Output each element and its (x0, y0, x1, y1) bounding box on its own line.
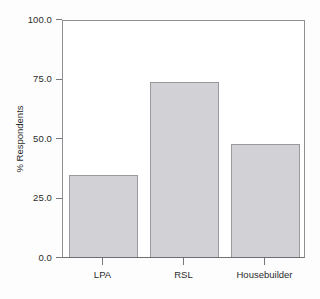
bar-slot (150, 21, 219, 257)
bar-slot (231, 21, 300, 257)
x-axis-tick-label-lpa: LPA (94, 269, 111, 280)
bar-lpa[interactable] (69, 175, 138, 257)
y-axis-tick-label: 0.0 (6, 252, 52, 263)
x-axis-tick-label-housebuilder: Housebuilder (237, 269, 293, 280)
x-axis-tick-label-rsl: RSL (174, 269, 192, 280)
y-axis-tick-label: 50.0 (6, 133, 52, 144)
bar-chart-figure: % Respondents 0.025.050.075.0100.0 LPARS… (0, 0, 320, 299)
plot-area (62, 20, 305, 258)
y-axis-tick-label: 75.0 (6, 73, 52, 84)
bars-layer (63, 21, 304, 257)
y-axis-tick-label: 100.0 (6, 14, 52, 25)
x-axis-tick-mark (264, 258, 265, 265)
y-axis-tick-label: 25.0 (6, 192, 52, 203)
bar-housebuilder[interactable] (231, 144, 300, 257)
bar-rsl[interactable] (150, 82, 219, 257)
x-axis-tick-mark (102, 258, 103, 265)
bar-slot (69, 21, 138, 257)
x-axis-tick-mark (183, 258, 184, 265)
